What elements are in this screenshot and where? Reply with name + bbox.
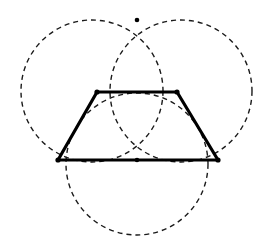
- trapezoid-top-right-point: [174, 89, 179, 94]
- trapezoid-bottom-left-point: [55, 157, 60, 162]
- figure-root: [0, 0, 275, 247]
- top-intersection-point: [135, 18, 140, 23]
- trapezoid-right-leg: [177, 92, 218, 160]
- trapezoid-bottom-right-point: [215, 157, 220, 162]
- center-baseline-point: [135, 158, 140, 163]
- trapezoid-top-left-point: [94, 89, 99, 94]
- geometry-canvas: [0, 0, 275, 247]
- trapezoid-left-leg: [58, 92, 97, 160]
- lower-center-circle: [66, 93, 208, 235]
